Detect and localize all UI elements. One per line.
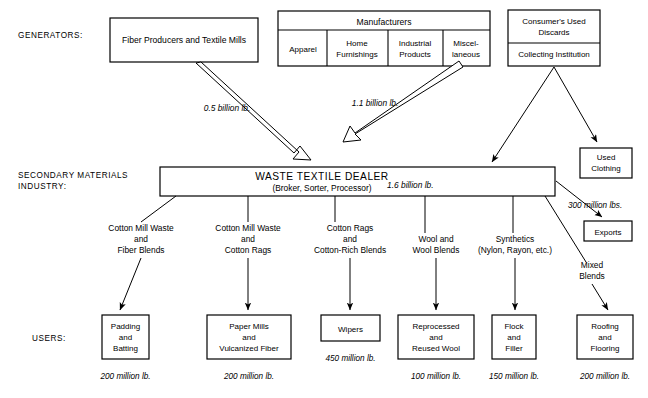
flow-amount-fiber: 0.5 billion lb. [204, 103, 251, 113]
label-used-clothing-1: Used [597, 153, 616, 162]
user-2-amount: 200 million lb. [223, 372, 274, 381]
stream-label-5-line1: Synthetics [496, 234, 535, 244]
arrow-stream-6-to-user [592, 284, 608, 310]
label-exports: Exports [594, 228, 621, 237]
user-4-amount: 100 million lb. [411, 372, 461, 381]
label-manufacturers-misc-2: laneous [452, 50, 480, 59]
label-consumers-line1: Consumer's Used [522, 17, 585, 26]
label-manufacturers-home-2: Furnishings [336, 50, 377, 59]
user-4-line3: Reused Wool [412, 344, 460, 353]
stream-label-6-line2: Blends [579, 271, 605, 281]
flow-arrow-dealer-to-exports [556, 181, 602, 217]
label-manufacturers-apparel: Apparel [289, 45, 317, 54]
user-3-amount: 450 million lb. [325, 354, 375, 363]
user-6-line2: and [598, 333, 611, 342]
label-manufacturers-industrial-1: Industrial [399, 39, 432, 48]
row-label-users: USERS: [32, 334, 66, 343]
user-6-line1: Roofing [591, 322, 619, 331]
stream-label-1-line2: and [134, 234, 148, 244]
user-1-line1: Padding [111, 322, 140, 331]
user-2-line3: Vulcanized Fiber [219, 344, 279, 353]
stream-label-1-line3: Fiber Blends [117, 245, 164, 255]
diagram-page: GENERATORS: SECONDARY MATERIALS INDUSTRY… [0, 0, 648, 398]
user-6-amount: 200 million lb. [579, 372, 630, 381]
flow-arrow-collecting-to-dealer [492, 67, 554, 162]
flow-amount-exports: 300 million lbs. [568, 201, 622, 210]
user-2-line2: and [242, 333, 255, 342]
stream-label-3-line2: and [343, 234, 357, 244]
flow-diagram-canvas: GENERATORS: SECONDARY MATERIALS INDUSTRY… [0, 0, 648, 398]
label-manufacturers-industrial-2: Products [399, 50, 431, 59]
user-5-line1: Flock [504, 322, 524, 331]
row-label-generators: GENERATORS: [18, 31, 83, 40]
stream-label-3-line3: Cotton-Rich Blends [314, 245, 386, 255]
stream-label-2-line1: Cotton Mill Waste [215, 223, 281, 233]
flow-amount-manufacturers: 1.1 billion lb. [352, 98, 399, 108]
user-1-line3: Batting [113, 344, 138, 353]
stream-connector-1-top [141, 196, 176, 222]
user-5-line2: and [507, 333, 520, 342]
stream-label-3-line1: Cotton Rags [327, 223, 374, 233]
label-manufacturers-misc-1: Miscel- [453, 39, 479, 48]
user-1-amount: 200 million lb. [99, 372, 150, 381]
label-manufacturers-header: Manufacturers [357, 17, 412, 27]
row-label-secondary-line1: SECONDARY MATERIALS [18, 171, 128, 180]
stream-label-4-line2: Wool Blends [413, 245, 460, 255]
user-1-line2: and [119, 333, 132, 342]
label-dealer-throughput: 1.6 billion lb. [387, 180, 434, 190]
label-manufacturers-home-1: Home [346, 39, 368, 48]
label-dealer-subtitle: (Broker, Sorter, Processor) [272, 183, 371, 193]
user-6-line3: Flooring [591, 344, 620, 353]
stream-label-1-line1: Cotton Mill Waste [108, 223, 174, 233]
user-2-line1: Paper Mills [229, 322, 269, 331]
stream-label-2-line2: and [241, 234, 255, 244]
flow-arrow-collecting-to-used-clothing [554, 67, 597, 142]
label-collecting-institution: Collecting Institution [518, 50, 590, 59]
label-dealer-title: WASTE TEXTILE DEALER [255, 171, 388, 182]
label-fiber-producers: Fiber Producers and Textile Mills [122, 35, 246, 45]
label-consumers-line2: Discards [538, 28, 569, 37]
stream-label-6-line1: Mixed [581, 260, 604, 270]
stream-label-2-line3: Cotton Rags [225, 245, 272, 255]
user-4-line1: Reprocessed [412, 322, 459, 331]
row-label-secondary-line2: INDUSTRY: [18, 182, 66, 191]
user-5-line3: Filler [505, 344, 523, 353]
user-5-amount: 150 million lb. [489, 372, 539, 381]
stream-label-5-line2: (Nylon, Rayon, etc.) [478, 245, 552, 255]
arrow-stream-1-to-user [120, 258, 141, 310]
stream-label-4-line1: Wool and [418, 234, 454, 244]
label-used-clothing-2: Clothing [591, 164, 620, 173]
user-3-line1: Wipers [338, 325, 363, 334]
user-4-line2: and [429, 333, 442, 342]
